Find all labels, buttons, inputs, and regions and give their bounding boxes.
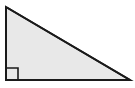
figure-canvas: Right triangle (0, 0, 135, 88)
right-triangle-figure (0, 0, 135, 88)
